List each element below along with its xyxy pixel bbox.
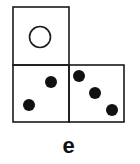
top-face <box>13 7 69 65</box>
pip <box>106 104 118 116</box>
figure-label: e <box>0 133 137 159</box>
bottom-left-face <box>13 65 69 122</box>
pip <box>45 76 57 88</box>
pip <box>23 99 35 111</box>
pip <box>89 87 101 99</box>
bottom-right-face <box>69 65 124 122</box>
pip <box>73 70 85 82</box>
hollow-circle <box>30 27 51 48</box>
